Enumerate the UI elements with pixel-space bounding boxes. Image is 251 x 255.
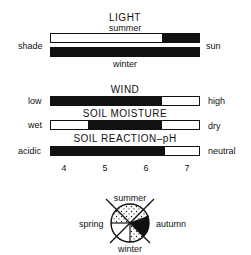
season-wheel-icon [0, 0, 251, 255]
